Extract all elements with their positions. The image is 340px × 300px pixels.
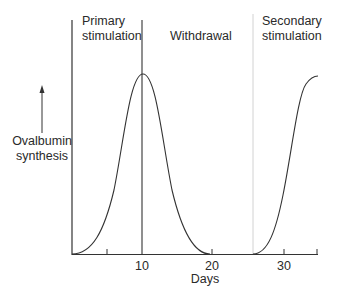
x-tick-label-30: 30: [272, 259, 296, 274]
y-axis-label: Ovalbumin synthesis: [10, 134, 74, 164]
primary-response-curve: [72, 74, 210, 254]
phase-primary-line2: stimulation: [82, 29, 142, 44]
arrow-up-icon: [40, 85, 45, 93]
phase-primary-label: Primary stimulation: [82, 14, 142, 44]
phase-primary-line1: Primary: [82, 14, 142, 29]
y-axis-label-line1: Ovalbumin: [10, 134, 74, 149]
phase-secondary-line2: stimulation: [262, 29, 322, 44]
phase-secondary-line1: Secondary: [262, 14, 322, 29]
phase-secondary-label: Secondary stimulation: [262, 14, 322, 44]
x-tick-label-10: 10: [130, 259, 154, 274]
secondary-response-curve: [253, 76, 318, 254]
y-axis-label-line2: synthesis: [10, 149, 74, 164]
phase-withdrawal-label: Withdrawal: [170, 29, 232, 44]
x-axis-ticks: [107, 249, 317, 254]
x-axis-label: Days: [180, 272, 230, 287]
